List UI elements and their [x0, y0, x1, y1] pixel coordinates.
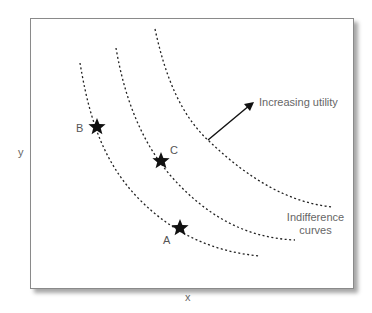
increasing-utility-label: Increasing utility	[259, 96, 338, 108]
plot-area	[0, 0, 372, 313]
point-label-c: C	[170, 144, 178, 156]
y-axis-label: y	[18, 146, 24, 158]
point-label-b: B	[76, 122, 83, 134]
utility-arrow	[208, 105, 250, 140]
x-axis-label: x	[185, 291, 191, 303]
indifference-curve-2	[116, 48, 295, 240]
indifference-curve-3	[155, 29, 333, 207]
indifference-curves-label-line2: curves	[284, 224, 347, 236]
indifference-curve-1	[80, 63, 260, 256]
star-icon-a	[171, 219, 188, 235]
point-label-a: A	[163, 234, 170, 246]
star-icon-b	[88, 118, 105, 134]
indifference-curves-label-line1: Indifference	[284, 211, 347, 223]
